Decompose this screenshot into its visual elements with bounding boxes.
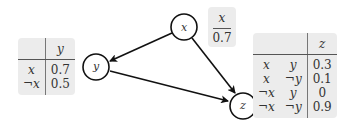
cpt-y-value: 0.7 [45,60,75,78]
cpt-z-c1: x [253,55,280,73]
cpt-z-header-c2 [280,33,307,55]
cpt-z-c2: ¬y [280,100,307,118]
cpt-z-value: 0.9 [307,100,337,118]
edge-x-to-y [110,33,172,61]
cpt-y-header-cond [18,38,45,60]
cpt-z-c1: x [253,72,280,86]
node-y-label: y [92,60,100,73]
cpt-z-table: z x y 0.3 x ¬y 0.1 ¬x y 0 ¬x ¬y 0.9 [253,33,337,118]
cpt-z-c1: ¬x [253,100,280,118]
cpt-z-row: ¬x ¬y 0.9 [253,100,337,118]
cpt-z-c1: ¬x [253,86,280,100]
cpt-x-table: x 0.7 [208,7,236,47]
node-y: y [83,54,109,80]
cpt-z-c2: ¬y [280,72,307,86]
cpt-z-value: 0.1 [307,72,337,86]
cpt-z-c2: y [280,86,307,100]
edge-y-to-z [110,71,228,101]
cpt-x-rule [213,28,231,29]
cpt-z-header-c1 [253,33,280,55]
cpt-x-header: x [208,11,236,25]
cpt-z-row: x y 0.3 [253,55,337,73]
cpt-y-row: ¬x 0.5 [18,77,75,95]
node-x: x [171,14,197,40]
cpt-y-row: x 0.7 [18,60,75,78]
cpt-z-row: x ¬y 0.1 [253,72,337,86]
cpt-z-value: 0 [307,86,337,100]
cpt-z-c2: y [280,55,307,73]
cpt-y-value: 0.5 [45,77,75,95]
cpt-z-row: ¬x y 0 [253,86,337,100]
cpt-x-value: 0.7 [208,31,236,45]
cpt-y-header-row: y [18,38,75,60]
cpt-y-cond: x [18,60,45,78]
cpt-y-cond: ¬x [18,77,45,95]
cpt-y-table: y x 0.7 ¬x 0.5 [18,38,75,95]
node-z-label: z [239,99,246,112]
cpt-z-header-row: z [253,33,337,55]
node-x-label: x [181,21,188,34]
cpt-y-header-var: y [45,38,75,60]
cpt-z-value: 0.3 [307,55,337,73]
cpt-z-header-var: z [307,33,337,55]
